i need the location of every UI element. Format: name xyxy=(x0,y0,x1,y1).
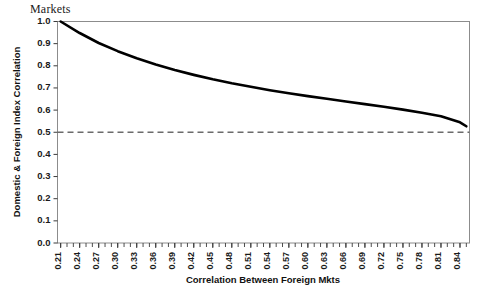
data-series-line xyxy=(61,22,467,127)
x-tick-label: 0.30 xyxy=(110,252,120,270)
x-tick-label: 0.75 xyxy=(395,252,405,270)
x-tick-label: 0.78 xyxy=(414,252,424,270)
x-tick-label: 0.63 xyxy=(319,252,329,270)
y-tick-label: 0.7 xyxy=(37,81,50,92)
y-axis-tick-group xyxy=(54,22,58,244)
x-tick-label: 0.72 xyxy=(376,252,386,270)
x-tick-label: 0.48 xyxy=(224,252,234,270)
y-tick-label: 0.0 xyxy=(37,237,50,248)
x-tick-label: 0.69 xyxy=(357,252,367,270)
y-axis-title: Domestic & Foreign Index Correlation xyxy=(11,47,22,218)
x-tick-label: 0.51 xyxy=(243,252,253,270)
chart-canvas: 0.00.10.20.30.40.50.60.70.80.91.0 0.210.… xyxy=(0,0,486,294)
x-axis-tick-group xyxy=(61,243,460,248)
x-axis-minor-tick-group xyxy=(61,243,467,247)
figure-container: Markets 0.00.10.20.30.40.50.60.70.80.91.… xyxy=(0,0,486,294)
x-tick-label: 0.84 xyxy=(452,252,462,270)
y-tick-label: 0.5 xyxy=(37,126,51,137)
y-tick-label: 0.2 xyxy=(37,192,50,203)
x-tick-label: 0.42 xyxy=(186,252,196,270)
y-tick-label: 0.1 xyxy=(37,214,51,225)
x-tick-label: 0.33 xyxy=(129,252,139,270)
y-axis-label-group: 0.00.10.20.30.40.50.60.70.80.91.0 xyxy=(37,15,51,248)
x-tick-label: 0.45 xyxy=(205,252,215,270)
y-tick-label: 0.6 xyxy=(37,104,50,115)
y-tick-label: 0.9 xyxy=(37,37,50,48)
x-axis-label-group: 0.210.240.270.300.330.360.390.420.450.48… xyxy=(53,252,462,270)
y-tick-label: 0.8 xyxy=(37,59,50,70)
x-tick-label: 0.66 xyxy=(338,252,348,270)
x-tick-label: 0.39 xyxy=(167,252,177,270)
x-tick-label: 0.57 xyxy=(281,252,291,270)
x-tick-label: 0.54 xyxy=(262,252,272,270)
data-series-group xyxy=(58,22,470,133)
x-tick-label: 0.36 xyxy=(148,252,158,270)
x-axis-title: Correlation Between Foreign Mkts xyxy=(186,274,340,285)
x-tick-label: 0.81 xyxy=(433,252,443,270)
y-tick-label: 0.3 xyxy=(37,170,50,181)
x-tick-label: 0.24 xyxy=(72,252,82,270)
x-tick-label: 0.21 xyxy=(53,252,63,270)
y-tick-label: 1.0 xyxy=(37,15,50,26)
x-tick-label: 0.27 xyxy=(91,252,101,270)
y-tick-label: 0.4 xyxy=(37,148,51,159)
x-tick-label: 0.60 xyxy=(300,252,310,270)
